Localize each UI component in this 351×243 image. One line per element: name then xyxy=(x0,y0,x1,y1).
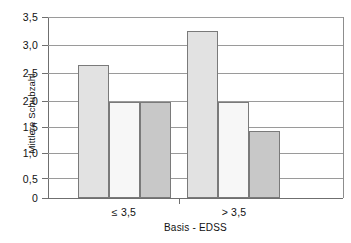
bar-group1-series1 xyxy=(78,65,109,198)
bar-group2-series3 xyxy=(249,131,280,198)
y-axis-title: Mittlere Schubzahl xyxy=(26,34,37,194)
bar-chart: Mittlere Schubzahl 3,5 3,0 2,5 2,0 1,5 1… xyxy=(0,0,351,243)
y-tick-label-0-5: 0,5 xyxy=(10,173,38,185)
y-tick-label-2-0: 2,0 xyxy=(10,95,38,107)
x-axis-title: Basis - EDSS xyxy=(48,222,343,233)
y-tick-label-1-0: 1,0 xyxy=(10,147,38,159)
y-tick-label-3-0: 3,0 xyxy=(10,39,38,51)
x-tick-mark-center xyxy=(179,198,180,204)
gridline-3-5 xyxy=(48,17,343,18)
y-tick-label-2-5: 2,5 xyxy=(10,67,38,79)
bar-group2-series1 xyxy=(187,31,218,198)
x-tick-label-group2: > 3,5 xyxy=(189,206,279,218)
bar-group2-series2 xyxy=(218,102,249,198)
bar-group1-series2 xyxy=(109,102,140,198)
x-tick-label-group1: ≤ 3,5 xyxy=(79,206,169,218)
y-tick-label-1-5: 1,5 xyxy=(10,121,38,133)
bar-group1-series3 xyxy=(140,102,171,198)
y-tick-label-0: 0 xyxy=(10,192,38,204)
x-axis-line xyxy=(48,198,343,199)
y-tick-label-3-5: 3,5 xyxy=(10,11,38,23)
